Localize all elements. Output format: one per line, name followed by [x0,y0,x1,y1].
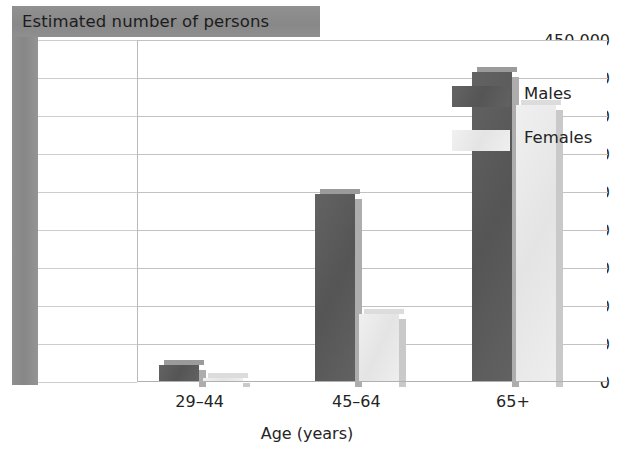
bar-males-2944 [159,365,199,382]
legend-label-males: Males [524,84,572,103]
gridline [138,40,608,41]
x-axis-line [138,381,608,382]
bar-front-face [159,365,199,382]
y-axis-tick-separator [38,154,137,155]
y-axis-tick-separator [38,344,137,345]
bar-front-face [472,72,512,382]
x-axis-title: Age (years) [137,424,477,443]
legend-swatch-females-icon [452,130,510,151]
bar-side-face [399,319,406,387]
y-axis-tick-separator [38,306,137,307]
bar-chart: Estimated number of persons 050,000100,0… [0,0,618,455]
bar-males-4564 [315,194,355,382]
y-axis-tick-separator [38,230,137,231]
y-axis-tick-separator [38,268,137,269]
legend-swatch-males-icon [452,86,510,107]
y-axis-tick-separator [38,192,137,193]
y-axis-tick-separator [38,116,137,117]
y-axis-backing-band [12,6,38,385]
x-axis-tick-label: 45–64 [332,392,381,411]
x-axis-tick-label: 29–44 [175,392,224,411]
y-axis-tick-separator [38,78,137,79]
bar-front-face [315,194,355,382]
x-axis-tick-label: 65+ [496,392,530,411]
gridline [138,78,608,79]
bar-side-face [556,110,563,387]
legend-label-females: Females [524,128,592,147]
bar-front-face [359,314,399,382]
bar-side-face [243,383,250,387]
bar-females-4564 [359,314,399,382]
y-axis-tick-separator [38,382,137,383]
chart-title: Estimated number of persons [22,9,318,35]
bar-males-65 [472,72,512,382]
y-axis-tick-separator [38,40,137,41]
